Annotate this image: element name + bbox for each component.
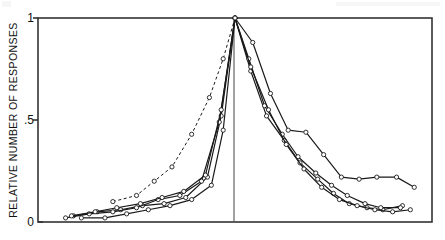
- series-curve-3: [79, 16, 416, 220]
- series-line: [113, 18, 235, 202]
- data-point-marker: [264, 114, 268, 118]
- series-line: [66, 18, 401, 218]
- data-point-marker: [302, 167, 306, 171]
- series-curve-4: [69, 16, 412, 218]
- data-point-marker: [146, 208, 150, 212]
- data-series-layer: [63, 16, 416, 220]
- data-point-marker: [329, 183, 333, 187]
- data-point-marker: [337, 197, 341, 201]
- data-point-marker: [284, 142, 288, 146]
- series-curve-1: [71, 16, 404, 218]
- data-point-marker: [115, 206, 119, 210]
- data-point-marker: [203, 173, 207, 177]
- data-point-marker: [134, 206, 138, 210]
- y-axis-title: RELATIVE NUMBER OF RESPONSES: [7, 22, 19, 217]
- data-point-marker: [266, 108, 270, 112]
- y-axis-title-group: RELATIVE NUMBER OF RESPONSES: [7, 22, 19, 217]
- data-point-marker: [363, 202, 367, 206]
- data-point-marker: [394, 175, 398, 179]
- data-point-marker: [125, 212, 129, 216]
- data-point-marker: [345, 193, 349, 197]
- data-point-marker: [162, 202, 166, 206]
- y-tick-label-0: 0: [27, 215, 34, 229]
- data-point-marker: [168, 204, 172, 208]
- data-point-marker: [134, 193, 138, 197]
- series-line: [73, 18, 402, 216]
- data-point-marker: [209, 183, 213, 187]
- data-point-marker: [63, 216, 67, 220]
- series-curve-5-dashed: [111, 16, 237, 204]
- data-point-marker: [355, 204, 359, 208]
- data-point-marker: [103, 216, 107, 220]
- series-line: [71, 18, 410, 216]
- data-point-marker: [412, 185, 416, 189]
- y-tick-labels: 1 .5 0: [24, 11, 34, 229]
- data-point-marker: [79, 216, 83, 220]
- data-point-marker: [314, 171, 318, 175]
- data-point-marker: [320, 185, 324, 189]
- data-point-marker: [316, 177, 320, 181]
- data-point-marker: [111, 200, 115, 204]
- data-point-marker: [221, 57, 225, 61]
- data-point-marker: [184, 195, 188, 199]
- data-point-marker: [190, 197, 194, 201]
- data-point-marker: [93, 210, 97, 214]
- data-point-marker: [221, 128, 225, 132]
- chart-canvas: RELATIVE NUMBER OF RESPONSES 1 .5 0: [0, 0, 445, 240]
- data-point-marker: [207, 95, 211, 99]
- data-point-marker: [249, 65, 253, 69]
- data-point-marker: [391, 210, 395, 214]
- y-tick-label-0point5: .5: [24, 113, 34, 127]
- plot-frame: [33, 18, 432, 222]
- figure-panel: RELATIVE NUMBER OF RESPONSES 1 .5 0: [0, 0, 445, 240]
- data-point-marker: [322, 153, 326, 157]
- axes-box: [38, 18, 432, 222]
- data-point-marker: [268, 91, 272, 95]
- data-point-marker: [138, 202, 142, 206]
- series-line: [81, 18, 414, 218]
- data-point-marker: [379, 206, 383, 210]
- data-point-marker: [190, 132, 194, 136]
- data-point-marker: [339, 175, 343, 179]
- data-point-marker: [304, 130, 308, 134]
- data-point-marker: [357, 177, 361, 181]
- data-point-marker: [219, 108, 223, 112]
- data-point-marker: [373, 208, 377, 212]
- data-point-marker: [178, 193, 182, 197]
- data-point-marker: [375, 175, 379, 179]
- data-point-marker: [233, 16, 237, 20]
- data-point-marker: [111, 210, 115, 214]
- data-point-marker: [408, 208, 412, 212]
- data-point-marker: [69, 214, 73, 218]
- data-point-marker: [398, 206, 402, 210]
- data-point-marker: [170, 165, 174, 169]
- data-point-marker: [152, 179, 156, 183]
- data-point-marker: [286, 128, 290, 132]
- data-point-marker: [160, 195, 164, 199]
- series-curve-2: [63, 16, 402, 220]
- data-point-marker: [251, 40, 255, 44]
- data-point-marker: [182, 189, 186, 193]
